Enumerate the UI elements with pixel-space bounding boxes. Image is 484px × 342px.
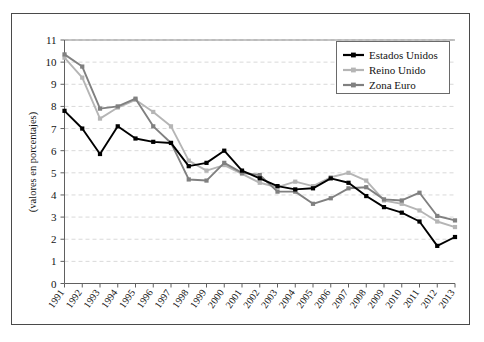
x-tick-label: 1991 [46, 287, 66, 310]
x-tick-label: 2002 [241, 287, 261, 310]
series-estados-unidos [62, 109, 457, 248]
x-tick-label: 2003 [259, 287, 279, 310]
figure-container: 01234567891011 1991199219931994199519961… [0, 0, 484, 342]
x-axis-ticks: 1991199219931994199519961997199819992000… [46, 284, 457, 311]
data-point-marker [116, 124, 120, 128]
data-point-marker [435, 244, 439, 248]
y-tick-label: 3 [51, 211, 57, 223]
y-tick-label: 8 [51, 100, 57, 112]
x-tick-label: 1995 [117, 287, 137, 310]
data-point-marker [169, 141, 173, 145]
data-point-marker [400, 211, 404, 215]
data-point-marker [258, 176, 262, 180]
data-point-marker [204, 161, 208, 165]
data-point-marker [364, 194, 368, 198]
x-tick-label: 1996 [134, 287, 154, 310]
legend-label: Estados Unidos [369, 49, 438, 61]
data-point-marker [80, 76, 84, 80]
y-tick-label: 4 [51, 189, 57, 201]
data-point-marker [151, 124, 155, 128]
data-point-marker [453, 225, 457, 229]
legend-marker [351, 68, 356, 73]
x-tick-label: 1997 [152, 287, 172, 310]
data-point-marker [151, 110, 155, 114]
data-point-marker [275, 190, 279, 194]
y-tick-label: 9 [51, 78, 57, 90]
data-point-marker [240, 169, 244, 173]
legend-marker [351, 83, 356, 88]
x-tick-label: 1998 [170, 287, 190, 310]
data-point-marker [453, 235, 457, 239]
y-tick-label: 7 [51, 123, 57, 135]
data-point-marker [62, 52, 66, 56]
data-point-marker [346, 186, 350, 190]
data-point-marker [400, 198, 404, 202]
x-tick-label: 2004 [276, 287, 296, 310]
x-tick-label: 1992 [63, 287, 83, 310]
data-point-marker [329, 196, 333, 200]
legend-label: Reino Unido [369, 64, 426, 76]
x-tick-label: 2009 [365, 287, 385, 310]
x-tick-label: 2012 [418, 287, 438, 310]
x-tick-label: 2007 [330, 287, 350, 310]
x-tick-label: 2005 [294, 287, 314, 310]
data-point-marker [222, 149, 226, 153]
data-point-marker [222, 161, 226, 165]
data-point-marker [435, 214, 439, 218]
x-tick-label: 2008 [347, 287, 367, 310]
data-point-marker [382, 197, 386, 201]
data-point-marker [98, 116, 102, 120]
x-tick-label: 2011 [401, 287, 421, 309]
data-point-marker [417, 219, 421, 223]
data-point-marker [417, 191, 421, 195]
data-point-marker [133, 97, 137, 101]
data-point-marker [98, 152, 102, 156]
y-tick-label: 6 [51, 145, 57, 157]
data-point-marker [364, 185, 368, 189]
data-point-marker [187, 159, 191, 163]
data-point-marker [293, 187, 297, 191]
x-tick-label: 2006 [312, 287, 332, 310]
data-point-marker [187, 164, 191, 168]
y-tick-label: 2 [51, 233, 57, 245]
data-point-marker [98, 107, 102, 111]
y-tick-label: 1 [51, 255, 57, 267]
x-tick-label: 1993 [81, 287, 101, 310]
x-tick-label: 2013 [436, 287, 456, 310]
data-point-marker [133, 136, 137, 140]
data-point-marker [382, 205, 386, 209]
data-point-marker [364, 178, 368, 182]
x-tick-label: 2000 [205, 287, 225, 310]
x-tick-label: 2010 [383, 287, 403, 310]
data-point-marker [311, 202, 315, 206]
y-tick-label: 5 [51, 167, 57, 179]
data-point-marker [169, 124, 173, 128]
y-axis-ticks: 01234567891011 [46, 34, 65, 290]
data-point-marker [80, 126, 84, 130]
data-point-marker [204, 169, 208, 173]
line-chart: 01234567891011 1991199219931994199519961… [0, 0, 484, 342]
x-tick-label: 1999 [188, 287, 208, 310]
data-point-marker [204, 178, 208, 182]
legend-marker [351, 53, 356, 58]
data-point-marker [293, 180, 297, 184]
data-point-marker [346, 171, 350, 175]
chart-plot-wrapper: 01234567891011 1991199219931994199519961… [0, 0, 484, 342]
data-point-marker [62, 109, 66, 113]
x-tick-label: 2001 [223, 287, 243, 310]
chart-legend: Estados UnidosReino UnidoZona Euro [337, 42, 450, 94]
x-tick-label: 1994 [99, 287, 119, 310]
y-tick-label: 11 [46, 34, 57, 46]
data-point-marker [417, 208, 421, 212]
y-tick-label: 10 [46, 56, 58, 68]
data-point-marker [435, 219, 439, 223]
data-point-marker [275, 184, 279, 188]
y-axis-title: (valores en porcentajes) [27, 111, 39, 212]
data-point-marker [453, 218, 457, 222]
data-point-marker [329, 176, 333, 180]
data-point-marker [80, 64, 84, 68]
data-point-marker [311, 186, 315, 190]
data-point-marker [151, 140, 155, 144]
data-point-marker [187, 177, 191, 181]
data-point-marker [258, 181, 262, 185]
